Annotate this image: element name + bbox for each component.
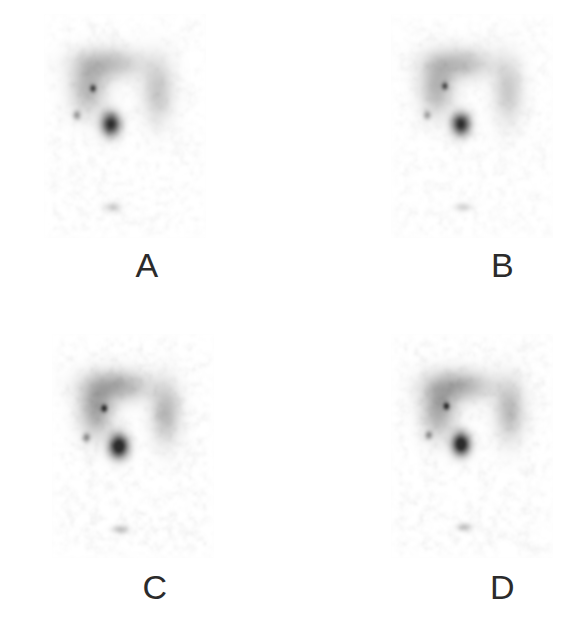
scan-panel-b[interactable]: B <box>290 0 579 320</box>
panel-label-d: D <box>290 570 579 604</box>
scan-canvas-c <box>52 334 214 558</box>
scan-image-c[interactable] <box>52 334 214 558</box>
panel-label-c: C <box>0 570 300 604</box>
scan-image-b[interactable] <box>391 14 553 238</box>
scan-panel-d[interactable]: D <box>290 320 579 640</box>
panel-label-b: B <box>290 248 579 282</box>
scan-image-d[interactable] <box>391 334 553 558</box>
scan-panel-c[interactable]: C <box>0 320 290 640</box>
figure-root: A B C D <box>0 0 579 640</box>
scan-canvas-d <box>391 334 553 558</box>
scan-panel-a[interactable]: A <box>0 0 290 320</box>
scan-canvas-a <box>44 14 206 238</box>
scan-image-a[interactable] <box>44 14 206 238</box>
scan-canvas-b <box>391 14 553 238</box>
panel-label-a: A <box>0 248 292 282</box>
